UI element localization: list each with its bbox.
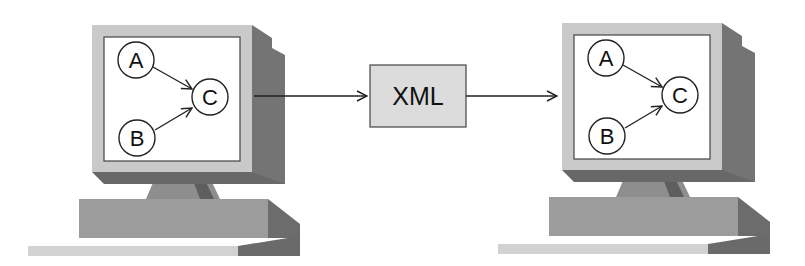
xml-box-label: XML (392, 82, 444, 110)
monitor-side (722, 23, 755, 182)
monitor-base (79, 199, 268, 238)
keyboard-side (238, 236, 300, 256)
target-computer: A B C (498, 23, 770, 254)
node-c-label: C (672, 83, 688, 108)
node-b: B (119, 120, 155, 156)
xml-box: XML (370, 65, 466, 127)
diagram-canvas: A B C XML (0, 0, 805, 266)
node-b: B (589, 118, 625, 154)
keyboard (28, 246, 238, 256)
monitor-bottom (92, 172, 285, 184)
node-b-label: B (130, 126, 145, 151)
monitor-base-side (268, 199, 300, 238)
source-computer: A B C (28, 25, 300, 256)
keyboard-side (708, 234, 770, 254)
node-c: C (662, 77, 698, 113)
node-a-label: A (129, 48, 144, 73)
node-a: A (588, 40, 624, 76)
node-b-label: B (600, 124, 615, 149)
monitor-base (549, 197, 738, 236)
keyboard (498, 244, 708, 254)
node-c: C (192, 79, 228, 115)
monitor-base-side (738, 197, 770, 236)
node-c-label: C (202, 85, 218, 110)
node-a-label: A (599, 46, 614, 71)
monitor-bottom (562, 170, 755, 182)
monitor-side (252, 25, 285, 184)
node-a: A (118, 42, 154, 78)
